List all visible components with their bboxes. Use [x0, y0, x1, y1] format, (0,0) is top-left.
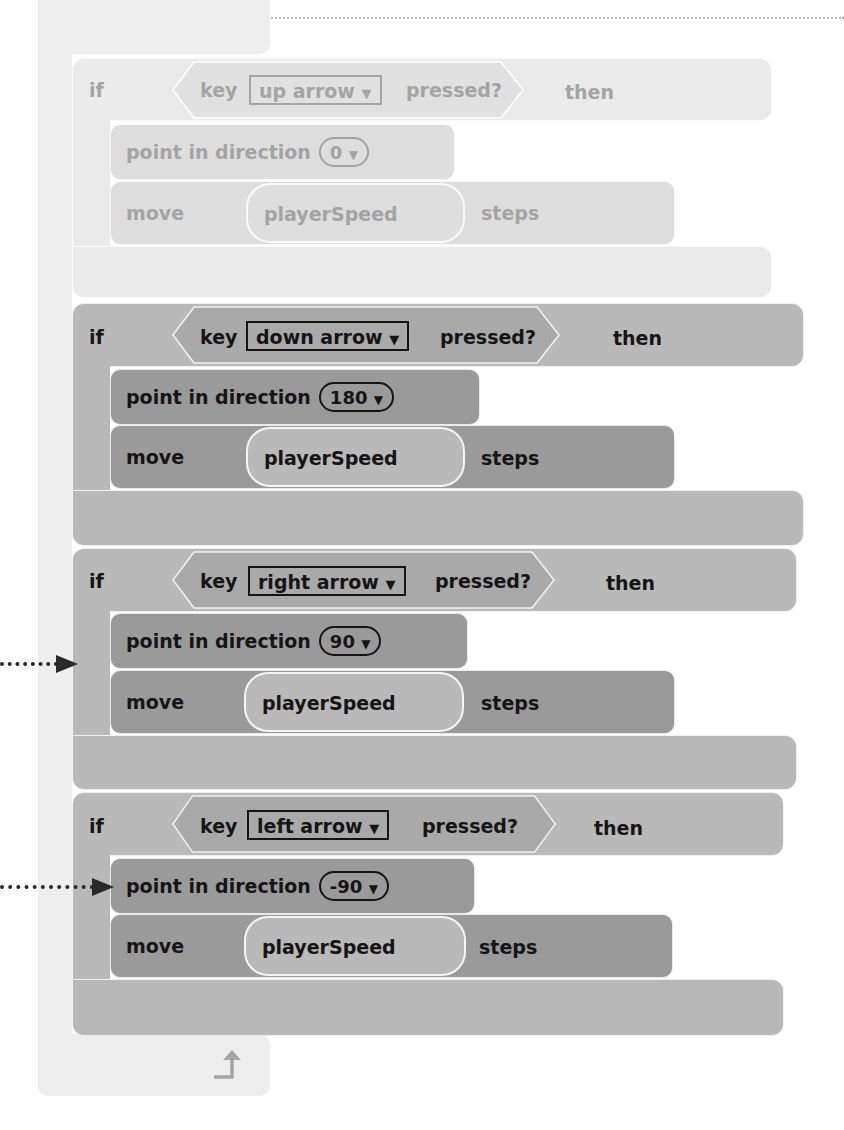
move-label: move [126, 202, 184, 224]
steps-label: steps [481, 446, 539, 470]
player-speed-variable[interactable]: playerSpeed [246, 183, 465, 243]
direction-dropdown[interactable]: -90 ▼ [319, 871, 389, 901]
move-label: move [126, 446, 184, 468]
then-label: then [613, 326, 662, 350]
direction-dropdown[interactable]: 180 ▼ [319, 382, 394, 412]
direction-dropdown[interactable]: 90 ▼ [319, 626, 382, 656]
point-label: point in direction [126, 141, 311, 163]
chevron-down-icon: ▼ [369, 882, 378, 896]
forever-block-top[interactable] [38, 0, 270, 54]
key-dropdown[interactable]: down arrow ▼ [246, 321, 409, 351]
callout-arrow-left-dots [0, 885, 94, 889]
chevron-down-icon: ▼ [369, 821, 379, 836]
key-dropdown[interactable]: left arrow ▼ [247, 810, 389, 840]
key-label: key [200, 78, 237, 102]
if-end-bar [72, 735, 797, 790]
if-arm [72, 853, 110, 985]
direction-value: 90 [330, 631, 355, 652]
point-in-direction-block[interactable]: point in direction 0 ▼ [110, 124, 455, 180]
player-speed-variable[interactable]: playerSpeed [246, 427, 465, 487]
pressed-label: pressed? [406, 78, 502, 102]
pressed-label: pressed? [440, 325, 536, 349]
if-arm [72, 609, 110, 741]
key-label: key [200, 814, 237, 838]
player-speed-variable[interactable]: playerSpeed [244, 672, 464, 732]
if-arm [72, 364, 110, 496]
key-dropdown-value: right arrow [258, 571, 379, 593]
chevron-down-icon: ▼ [389, 332, 399, 347]
if-end-bar [72, 979, 784, 1036]
pressed-label: pressed? [422, 814, 518, 838]
forever-block-bottom[interactable] [38, 1034, 270, 1096]
if-arm [72, 118, 110, 250]
key-dropdown-value: left arrow [257, 815, 363, 837]
steps-label: steps [481, 691, 539, 715]
direction-dropdown[interactable]: 0 ▼ [319, 137, 369, 167]
chevron-down-icon: ▼ [349, 148, 358, 162]
forever-block-arm[interactable] [38, 40, 72, 1050]
then-label: then [606, 571, 655, 595]
callout-arrow-left-head-icon [92, 878, 114, 896]
loop-arrow-icon [210, 1048, 250, 1082]
if-label: if [89, 569, 104, 593]
direction-value: -90 [330, 876, 363, 897]
direction-value: 180 [330, 387, 368, 408]
point-in-direction-block[interactable]: point in direction 180 ▼ [110, 369, 480, 425]
point-in-direction-block[interactable]: point in direction 90 ▼ [110, 613, 468, 669]
steps-label: steps [481, 201, 539, 225]
if-end-bar [72, 246, 772, 298]
callout-arrow-right-head-icon [56, 655, 78, 673]
chevron-down-icon: ▼ [361, 637, 370, 651]
direction-value: 0 [330, 142, 343, 163]
steps-label: steps [479, 935, 537, 959]
chevron-down-icon: ▼ [374, 393, 383, 407]
player-speed-variable[interactable]: playerSpeed [244, 916, 466, 976]
key-dropdown-value: up arrow [259, 80, 355, 102]
if-end-bar [72, 490, 804, 546]
point-in-direction-block[interactable]: point in direction -90 ▼ [110, 858, 475, 914]
if-label: if [89, 78, 104, 102]
callout-arrow-right-dots [0, 662, 58, 666]
key-label: key [200, 325, 237, 349]
point-label: point in direction [126, 630, 311, 652]
if-label: if [89, 814, 104, 838]
key-dropdown-value: down arrow [256, 326, 383, 348]
chevron-down-icon: ▼ [386, 577, 396, 592]
point-label: point in direction [126, 386, 311, 408]
then-label: then [565, 80, 614, 104]
key-dropdown[interactable]: up arrow ▼ [249, 75, 382, 105]
key-label: key [200, 569, 237, 593]
move-label: move [126, 691, 184, 713]
if-label: if [89, 325, 104, 349]
move-label: move [126, 935, 184, 957]
then-label: then [594, 816, 643, 840]
key-dropdown[interactable]: right arrow ▼ [248, 566, 406, 596]
point-label: point in direction [126, 875, 311, 897]
chevron-down-icon: ▼ [362, 86, 372, 101]
pressed-label: pressed? [435, 569, 531, 593]
